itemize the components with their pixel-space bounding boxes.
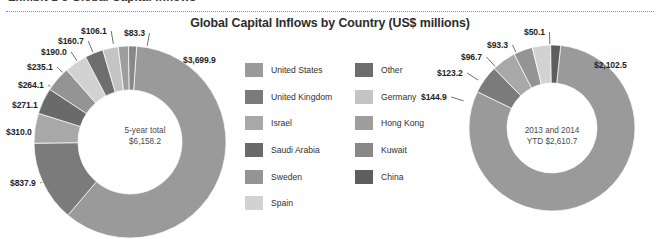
- value-callout: $190.0: [41, 47, 67, 57]
- legend-item-label: Other: [381, 65, 403, 75]
- value-callout: $106.1: [81, 26, 107, 36]
- value-callout: $123.2: [437, 68, 463, 78]
- legend-item[interactable]: United States: [245, 57, 332, 84]
- legend-item-label: Saudi Arabia: [271, 145, 320, 155]
- legend-swatch-icon: [355, 170, 373, 184]
- legend-item[interactable]: Spain: [245, 190, 332, 217]
- value-callout: $837.9: [10, 178, 36, 188]
- legend-swatch-icon: [245, 90, 263, 104]
- callout-leader-line: [451, 97, 463, 101]
- legend-item[interactable]: United Kingdom: [245, 84, 332, 111]
- legend-swatch-icon: [355, 143, 373, 157]
- legend-swatch-icon: [355, 116, 373, 130]
- legend-swatch-icon: [355, 90, 373, 104]
- value-callout: $3,699.9: [183, 55, 216, 65]
- value-callout: $271.1: [12, 100, 38, 110]
- value-callout: $93.3: [487, 40, 508, 50]
- legend-swatch-icon: [245, 63, 263, 77]
- legend-swatch-icon: [245, 143, 263, 157]
- value-callout: $96.7: [461, 52, 482, 62]
- exhibit-figure: Exhibit 1-3 Global Capital Inflows Globa…: [0, 0, 660, 239]
- legend-item[interactable]: Saudi Arabia: [245, 137, 332, 164]
- legend-item-label: Kuwait: [381, 145, 407, 155]
- legend-item[interactable]: Other: [355, 57, 424, 84]
- legend-swatch-icon: [355, 63, 373, 77]
- legend-item-label: Germany: [381, 92, 416, 102]
- legend-item-label: United Kingdom: [271, 92, 332, 102]
- legend-item-label: United States: [271, 65, 323, 75]
- legend-swatch-icon: [245, 170, 263, 184]
- legend-swatch-icon: [245, 196, 263, 210]
- legend-item[interactable]: Israel: [245, 110, 332, 137]
- value-callout: $310.0: [6, 127, 32, 137]
- header-divider: [6, 11, 654, 12]
- legend-item[interactable]: Kuwait: [355, 137, 424, 164]
- legend-item-label: China: [381, 172, 403, 182]
- donut-chart-five-year-total: [30, 42, 230, 239]
- legend-swatch-icon: [245, 116, 263, 130]
- legend-column-primary: United StatesUnited KingdomIsraelSaudi A…: [245, 57, 332, 217]
- value-callout: $144.9: [421, 92, 447, 102]
- value-callout: $2,102.5: [594, 60, 627, 70]
- value-callout: $264.1: [18, 80, 44, 90]
- legend-item[interactable]: China: [355, 163, 424, 190]
- legend-item-label: Spain: [271, 198, 293, 208]
- legend-column-secondary: OtherGermanyHong KongKuwaitChina: [355, 57, 424, 190]
- legend-item[interactable]: Germany: [355, 84, 424, 111]
- exhibit-heading: Exhibit 1-3 Global Capital Inflows: [8, 0, 196, 3]
- legend-item-label: Hong Kong: [381, 118, 424, 128]
- value-callout: $235.1: [27, 62, 53, 72]
- legend-item[interactable]: Sweden: [245, 163, 332, 190]
- value-callout: $83.3: [124, 28, 145, 38]
- value-callout: $50.1: [524, 27, 545, 37]
- value-callout: $160.7: [58, 36, 84, 46]
- legend-item[interactable]: Hong Kong: [355, 110, 424, 137]
- legend-item-label: Israel: [271, 118, 292, 128]
- legend-item-label: Sweden: [271, 172, 302, 182]
